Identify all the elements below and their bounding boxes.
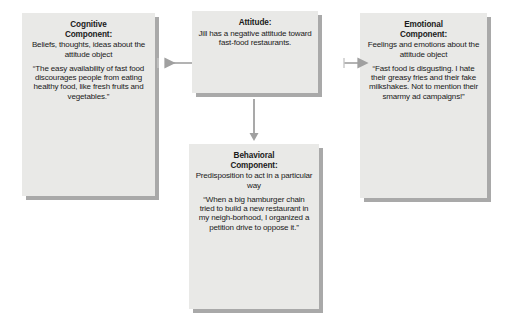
node-emotional-quote: “Fast food is disgusting. I hate their g… [366, 64, 481, 101]
node-attitude-title: Attitude: [198, 18, 312, 28]
node-behavioral-component[interactable]: BehavioralComponent: Predisposition to a… [189, 144, 319, 309]
connector-attitude-to-cognitive [158, 58, 192, 68]
node-behavioral-quote: “When a big hamburger chain tried to bui… [195, 195, 313, 232]
node-cognitive-description: Beliefs, thoughts, ideas about the attit… [28, 40, 149, 59]
node-behavioral-description: Predisposition to act in a particular wa… [195, 171, 313, 190]
node-emotional-component[interactable]: EmotionalComponent: Feelings and emotion… [360, 13, 487, 198]
node-behavioral-title: BehavioralComponent: [195, 151, 313, 170]
node-attitude-description: Jill has a negative attitude toward fast… [198, 29, 312, 48]
node-cognitive-quote: “The easy availability of fast food disc… [28, 64, 149, 101]
node-cognitive-title: CognitiveComponent: [28, 20, 149, 39]
connector-attitude-to-behavioral [250, 99, 259, 141]
node-attitude[interactable]: Attitude: Jill has a negative attitude t… [192, 11, 318, 93]
node-emotional-description: Feelings and emotions about the attitude… [366, 40, 481, 59]
attitude-components-diagram: CognitiveComponent: Beliefs, thoughts, i… [0, 0, 510, 330]
node-emotional-title: EmotionalComponent: [366, 20, 481, 39]
connector-attitude-to-emotional [344, 58, 359, 68]
node-cognitive-component[interactable]: CognitiveComponent: Beliefs, thoughts, i… [22, 13, 155, 196]
